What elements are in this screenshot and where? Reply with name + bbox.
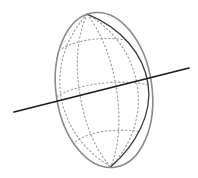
canvas-background: [0, 0, 198, 178]
sphere-diagram-canvas: [0, 0, 198, 178]
